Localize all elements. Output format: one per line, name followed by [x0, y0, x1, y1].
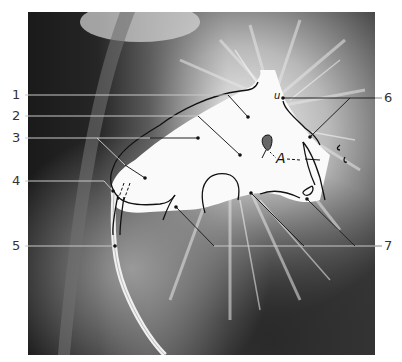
label-6: 6 [384, 91, 392, 105]
sketch-letter-a: A [275, 150, 286, 166]
film-background [28, 2, 375, 355]
label-1: 1 [12, 88, 20, 102]
angiogram-figure: u A [0, 0, 402, 362]
label-2: 2 [12, 109, 20, 123]
sketch-letter-u: u [274, 90, 280, 101]
label-7: 7 [384, 239, 392, 253]
label-5: 5 [12, 239, 20, 253]
label-3: 3 [12, 131, 20, 145]
label-4: 4 [12, 174, 20, 188]
radiograph-image: u A [0, 0, 402, 362]
